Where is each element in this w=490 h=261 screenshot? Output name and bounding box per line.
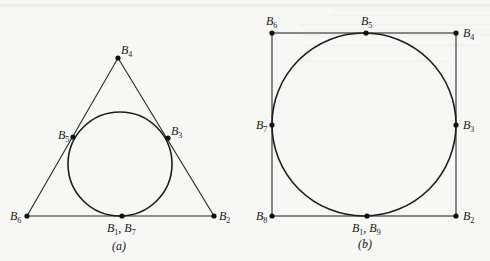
label-b4: B4 — [121, 43, 132, 59]
label-b1-b9: B1, B9 — [352, 221, 381, 237]
point-b3 — [453, 122, 458, 127]
caption-b: (b) — [358, 237, 372, 251]
caption-a: (a) — [112, 239, 126, 253]
panel-b: B6 B5 B4 B7 B3 B8 B2 B1, B9 (b) — [256, 14, 474, 251]
label-b5: B5 — [58, 128, 69, 144]
label-b1-b7: B1, B7 — [107, 221, 136, 237]
point-b4 — [453, 30, 458, 35]
point-b1-b9 — [364, 213, 369, 218]
point-b5 — [70, 134, 75, 139]
point-b2 — [453, 213, 458, 218]
control-triangle — [27, 58, 214, 216]
point-b1-b7 — [119, 213, 124, 218]
point-b5 — [363, 30, 368, 35]
label-b3: B3 — [463, 118, 474, 134]
point-b6 — [24, 213, 29, 218]
point-b2 — [211, 213, 216, 218]
label-b4: B4 — [463, 26, 474, 42]
label-b2: B2 — [219, 209, 230, 225]
label-b3: B3 — [171, 124, 182, 140]
point-b7 — [269, 122, 274, 127]
point-b4 — [115, 55, 120, 60]
bezier-control-polygon-figure: B4 B5 B3 B6 B2 B1, B7 (a) B6 B5 B4 B7 B3… — [0, 0, 490, 261]
label-b7: B7 — [256, 118, 267, 134]
point-b6 — [269, 30, 274, 35]
label-b8: B8 — [256, 209, 267, 225]
label-b5: B5 — [361, 14, 372, 30]
label-b6: B6 — [10, 209, 21, 225]
label-b2: B2 — [463, 209, 474, 225]
label-b6: B6 — [266, 14, 277, 30]
inscribed-circle — [68, 112, 172, 216]
panel-a: B4 B5 B3 B6 B2 B1, B7 (a) — [10, 43, 230, 253]
point-b8 — [269, 213, 274, 218]
point-b3 — [165, 135, 170, 140]
